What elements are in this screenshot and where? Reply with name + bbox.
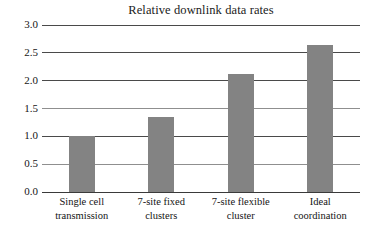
y-tick-label: 0.5 [4,158,38,169]
x-category-label: Idealcoordination [281,195,361,223]
y-axis: 0.00.51.01.52.02.53.0 [0,25,38,192]
y-tick-label: 3.0 [4,19,38,30]
gridline-3.0 [42,25,360,26]
bar [228,74,254,192]
bar [69,136,95,192]
bar [307,45,333,192]
x-category-label: Single celltransmission [42,195,122,223]
x-category-line: Single cell [42,195,122,209]
chart-title: Relative downlink data rates [42,3,360,18]
plot-area [42,25,360,192]
y-tick-label: 0.0 [4,186,38,197]
y-tick-label: 1.5 [4,103,38,114]
x-category-label: 7-site fixedclusters [122,195,202,223]
x-category-label: 7-site flexiblecluster [201,195,281,223]
bar [148,117,174,192]
x-category-line: cluster [201,209,281,223]
y-tick-label: 2.0 [4,75,38,86]
x-category-line: 7-site fixed [122,195,202,209]
x-category-line: coordination [281,209,361,223]
y-tick-label: 2.5 [4,47,38,58]
x-category-line: Ideal [281,195,361,209]
x-category-line: transmission [42,209,122,223]
x-category-line: 7-site flexible [201,195,281,209]
bar-chart: Relative downlink data rates 0.00.51.01.… [0,0,373,238]
x-category-line: clusters [122,209,202,223]
x-axis: Single celltransmission7-site fixedclust… [42,195,360,237]
y-tick-label: 1.0 [4,130,38,141]
